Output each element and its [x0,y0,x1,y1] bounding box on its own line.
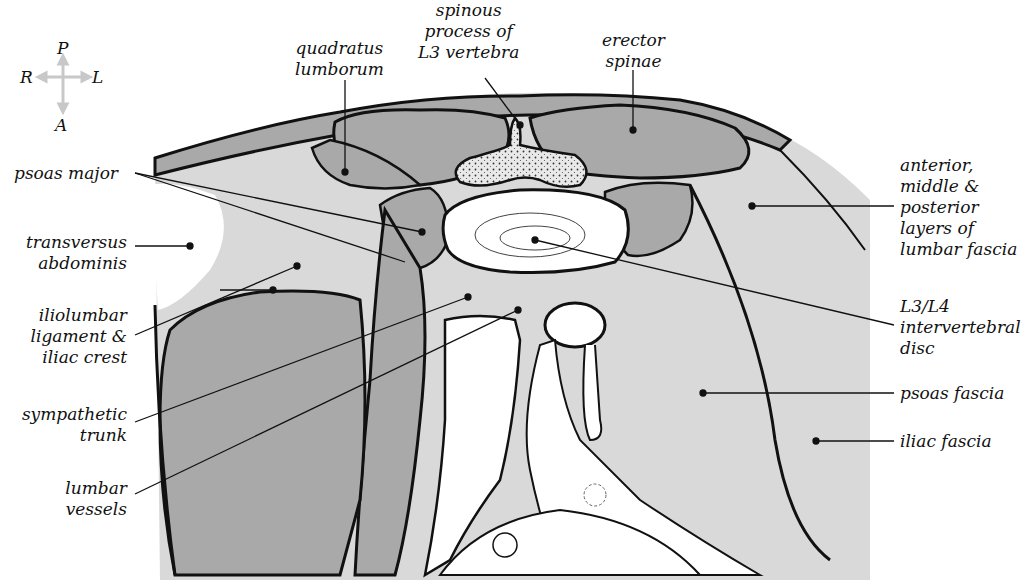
label-erector-spinae: erector spinae [602,30,665,72]
orientation-compass [38,56,90,112]
label-iliolumbar-ligament: iliolumbar ligament & iliac crest [22,305,127,368]
label-spinous-process: spinous process of L3 vertebra [418,0,519,63]
label-sympathetic-trunk: sympathetic trunk [10,404,127,446]
label-transversus-abdominis: transversus abdominis [22,232,127,274]
compass-anterior: A [55,115,67,135]
label-iliac-fascia: iliac fascia [900,431,992,452]
intervertebral-disc [443,190,628,273]
label-intervertebral-disc: L3/L4 intervertebral disc [900,296,1021,359]
compass-left: L [92,67,103,87]
label-lumbar-vessels: lumbar vessels [22,478,127,520]
label-psoas-major: psoas major [14,163,118,184]
label-psoas-fascia: psoas fascia [900,383,1004,404]
anatomical-illustration [0,0,1028,582]
label-quadratus-lumborum: quadratus lumborum [295,38,384,80]
compass-right: R [20,67,33,87]
label-lumbar-fascia: anterior, middle & posterior layers of l… [900,155,1017,260]
compass-posterior: P [57,38,68,58]
